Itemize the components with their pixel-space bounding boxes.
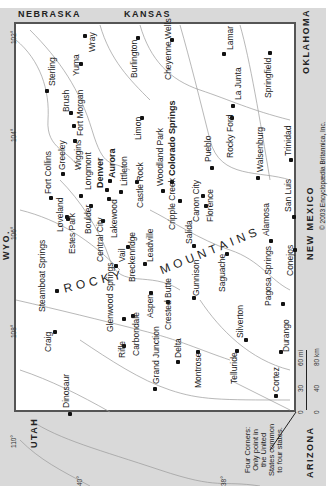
city-pueblo: Pueblo [204, 136, 213, 162]
city-denver: Denver [96, 157, 105, 188]
city-dot [108, 179, 112, 183]
city-colorado-springs: Colorado Springs [168, 100, 177, 176]
city-dot [192, 244, 196, 248]
city-fort-morgan: Fort Morgan [76, 90, 85, 136]
label-new-mexico: NEW MEXICO [306, 186, 315, 260]
city-dot [274, 394, 278, 398]
city-aspen: Aspen [146, 294, 155, 318]
city-conejos: Conejos [286, 245, 295, 276]
scale-mi-0: 0 [297, 410, 304, 414]
city-dot [281, 302, 285, 306]
city-rifle: Rifle [118, 341, 127, 358]
tick-110: 110° [10, 435, 17, 448]
city-la-junta: La Junta [234, 67, 243, 100]
tick-104: 104° [10, 129, 17, 142]
label-nebraska: NEBRASKA [18, 10, 81, 19]
city-dot [210, 166, 214, 170]
tick-102: 102° [10, 31, 17, 44]
city-dot [256, 176, 260, 180]
city-delta: Delta [174, 338, 183, 358]
city-canon-city: Canon City [192, 180, 201, 222]
city-breckenridge: Breckenridge [128, 232, 137, 282]
city-steamboat-springs: Steamboat Springs [38, 240, 47, 312]
city-vail: Vail [118, 248, 127, 262]
label-oklahoma: OKLAHOMA [302, 9, 311, 74]
city-dot [122, 317, 126, 321]
city-fort-collins: Fort Collins [44, 151, 53, 194]
city-aurora: Aurora [108, 148, 117, 178]
city-leadville: Leadville [146, 228, 155, 262]
city-cortez: Cortez [272, 367, 281, 392]
scale-km-40: 40 [313, 385, 320, 392]
city-carbondale: Carbondale [132, 312, 141, 356]
colorado-map: NEBRASKA KANSAS OKLAHOMA NEW MEXICO ARIZ… [0, 0, 335, 486]
city-dot [119, 190, 123, 194]
city-dinosaur: Dinosaur [62, 374, 71, 408]
city-silverton: Silverton [236, 305, 245, 338]
city-springfield: Springfield [264, 58, 273, 98]
city-dot [222, 52, 226, 56]
city-woodland-park: Woodland Park [156, 128, 165, 186]
tick-108: 108° [10, 325, 17, 338]
city-montrose: Montrose [194, 353, 203, 388]
city-telluride: Telluride [230, 352, 239, 384]
copyright-text: © 2003 Encyclopædia Britannica, Inc. [318, 122, 327, 231]
city-san-luis: San Luis [284, 179, 293, 212]
label-utah: UTAH [30, 418, 39, 448]
tick-38: 38° [220, 476, 227, 486]
city-lamar: Lamar [226, 26, 235, 50]
city-dot [61, 172, 65, 176]
city-dot [143, 262, 147, 266]
city-dot [79, 194, 83, 198]
city-dot [289, 158, 293, 162]
city-yuma: Yuma [72, 54, 81, 76]
city-dot [45, 89, 49, 93]
city-rocky-ford: Rocky Ford [226, 115, 235, 158]
city-greeley: Greeley [58, 140, 67, 170]
city-dot [161, 189, 165, 193]
city-salida: Salida [185, 220, 194, 244]
city-wiggins: Wiggins [74, 140, 83, 170]
city-dot [268, 51, 272, 55]
city-cripple-creek: Cripple Creek [168, 178, 177, 230]
city-crested-butte: Crested Butte [164, 278, 173, 330]
city-durango: Durango [282, 319, 291, 352]
scale-mi-60: 60 mi [297, 350, 304, 366]
city-brush: Brush [62, 90, 71, 112]
tick-40: 40° [76, 476, 83, 486]
city-glenwood-springs: Glenwood Springs [106, 263, 115, 332]
city-littleton: Littleton [120, 156, 129, 186]
four-corners-note: Four Corners: Only point in the United S… [244, 424, 284, 476]
region-wyoming [0, 8, 14, 412]
city-castle-rock: Castle Rock [136, 162, 145, 208]
city-dot [153, 387, 157, 391]
scale-km-0: 0 [313, 410, 320, 414]
label-arizona: ARIZONA [306, 427, 315, 479]
city-pagosa-springs: Pagosa Springs [264, 246, 273, 306]
city-dot [55, 289, 59, 293]
city-boulder: Boulder [84, 205, 93, 234]
city-lakewood: Lakewood [110, 199, 119, 238]
city-loveland: Loveland [56, 197, 65, 232]
city-craig: Craig [44, 332, 53, 352]
city-gunnison: Gunnison [192, 260, 201, 296]
city-sterling: Sterling [48, 57, 57, 86]
city-dot [192, 296, 196, 300]
scale-bar [306, 350, 313, 410]
city-cheyenne-wells: Cheyenne Wells [164, 40, 173, 80]
city-dot [292, 215, 296, 219]
city-wray: Wray [88, 32, 97, 52]
city-dot [105, 188, 109, 192]
city-alamosa: Alamosa [262, 203, 271, 236]
city-dot [53, 330, 57, 334]
city-saguache: Saguache [218, 254, 227, 292]
city-estes-park: Estes Park [68, 213, 77, 254]
city-dot [176, 360, 180, 364]
city-longmont: Longmont [84, 152, 93, 190]
city-burlington: Burlington [130, 40, 139, 78]
tick-106: 106° [10, 227, 17, 240]
city-dot [269, 239, 273, 243]
city-dot [231, 104, 235, 108]
scale-mi-30: 30 [297, 385, 304, 392]
city-dot [68, 412, 72, 416]
